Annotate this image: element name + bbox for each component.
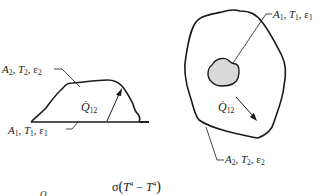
lhs-symbol: Q [40,189,47,196]
right-surface-1-label: A1, T1, ε1 [273,9,313,22]
area-symbol: A [8,124,15,136]
right-leader-a1 [233,14,272,63]
left-arrowhead-icon [116,88,122,96]
dot-accent-icon: · [221,96,225,107]
index: 1 [309,13,313,22]
left-heat-flow-label: ·Q12 [81,101,97,115]
equation-numerator: σ(T4 − T4) [112,180,161,194]
left-surface-2-label: A2, T2, ε2 [2,64,42,77]
minus-sign: − [136,180,143,194]
left-surface-1-label: A1, T1, ε1 [8,125,48,138]
area-symbol: A [2,63,9,75]
index: 1 [15,129,19,138]
equation-lhs-dot: Q [40,190,47,196]
right-heat-flow-label: ·Q12 [218,101,234,115]
index: 1 [44,129,48,138]
subscript: 12 [90,106,98,115]
diagram-canvas [0,0,328,196]
left-heat-arrow [107,92,120,121]
index: 2 [232,158,236,167]
left-leader-a1 [66,122,78,129]
index: 2 [247,158,251,167]
subscript: 12 [227,106,235,115]
t1-symbol: T [123,180,130,194]
index: 1 [30,129,34,138]
t1-exponent: 4 [130,180,134,188]
area-symbol: A [225,153,232,165]
index: 1 [295,13,299,22]
index: 2 [261,158,265,167]
index: 2 [9,68,13,77]
index: 2 [38,68,42,77]
index: 1 [280,13,284,22]
index: 2 [24,68,28,77]
dot-accent-icon: · [84,96,88,107]
area-symbol: A [273,8,280,20]
right-leader-a2 [206,127,224,160]
right-heat-arrow [236,97,254,117]
t2-symbol: T [146,180,153,194]
right-inner-body-1 [208,58,239,86]
right-surface-2-label: A2, T2, ε2 [225,154,265,167]
